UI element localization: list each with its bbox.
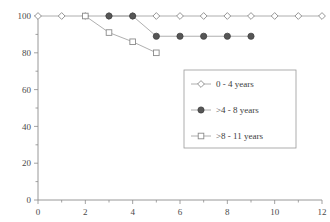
legend-entry-label: >8 - 11 years bbox=[216, 131, 263, 141]
x-tick-label: 8 bbox=[225, 207, 230, 217]
x-tick-label: 10 bbox=[270, 207, 280, 217]
data-point bbox=[106, 13, 112, 19]
series-line bbox=[85, 16, 156, 53]
data-point bbox=[130, 13, 136, 19]
data-point bbox=[153, 13, 160, 20]
y-tick-label: 20 bbox=[22, 158, 32, 168]
data-point bbox=[271, 13, 278, 20]
y-tick-label: 60 bbox=[22, 85, 32, 95]
data-point bbox=[200, 13, 207, 20]
data-point bbox=[130, 39, 136, 45]
y-axis: 020406080100 bbox=[18, 11, 39, 205]
y-tick-label: 40 bbox=[22, 122, 32, 132]
data-point bbox=[83, 13, 89, 19]
data-point bbox=[248, 33, 254, 39]
data-point bbox=[58, 13, 65, 20]
x-axis: 024681012 bbox=[36, 200, 327, 217]
data-point bbox=[154, 50, 160, 56]
data-point bbox=[201, 33, 207, 39]
data-point bbox=[319, 13, 326, 20]
y-tick-label: 100 bbox=[18, 11, 32, 21]
survival-curve-chart: 020406080100 024681012 0 - 4 years>4 - 8… bbox=[0, 0, 330, 222]
data-point bbox=[106, 30, 112, 36]
series-1 bbox=[35, 13, 326, 20]
chart-legend: 0 - 4 years>4 - 8 years>8 - 11 years bbox=[184, 70, 296, 148]
y-tick-label: 0 bbox=[27, 195, 32, 205]
legend-entry-label: >4 - 8 years bbox=[216, 105, 259, 115]
chart-canvas: 020406080100 024681012 0 - 4 years>4 - 8… bbox=[0, 0, 330, 222]
series-3 bbox=[83, 13, 160, 55]
data-point bbox=[177, 13, 184, 20]
data-point bbox=[224, 33, 230, 39]
legend-marker-open-square bbox=[198, 133, 204, 139]
y-tick-label: 80 bbox=[22, 48, 32, 58]
x-tick-label: 0 bbox=[36, 207, 41, 217]
data-point bbox=[248, 13, 255, 20]
data-point bbox=[35, 13, 42, 20]
x-tick-label: 4 bbox=[130, 207, 135, 217]
data-point bbox=[295, 13, 302, 20]
x-tick-label: 12 bbox=[318, 207, 327, 217]
data-point bbox=[177, 33, 183, 39]
legend-marker-filled-circle bbox=[198, 107, 204, 113]
data-point bbox=[224, 13, 231, 20]
data-series-group bbox=[35, 13, 326, 56]
data-point bbox=[153, 33, 159, 39]
x-tick-label: 2 bbox=[83, 207, 88, 217]
legend-entry-label: 0 - 4 years bbox=[216, 79, 254, 89]
x-tick-label: 6 bbox=[178, 207, 183, 217]
